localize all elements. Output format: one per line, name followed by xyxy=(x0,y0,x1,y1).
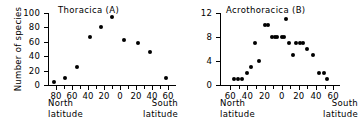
x-ticklabel-b-5: 40 xyxy=(310,91,321,101)
y-ticklabel-a-1: 20 xyxy=(16,66,40,76)
y-tick-b-0 xyxy=(216,85,220,86)
x-minor-tick-a-0 xyxy=(64,86,65,89)
data-point-b xyxy=(257,59,261,63)
y-tick-a-2 xyxy=(44,56,48,57)
x-tick-b-0 xyxy=(230,86,231,90)
north-line1-a: North xyxy=(48,98,83,109)
data-point-b xyxy=(305,47,309,51)
y-ticklabel-b-3: 12 xyxy=(188,8,212,18)
south-line1-b: South xyxy=(323,98,358,109)
y-ticklabel-a-2: 40 xyxy=(16,51,40,61)
north-line2-b: latitude xyxy=(220,109,255,120)
panel-thoracica: Number of species Thoracica (A) 02040608… xyxy=(0,0,182,134)
north-line2-a: latitude xyxy=(48,109,83,120)
data-point-b xyxy=(240,77,244,81)
x-ticklabel-a-4: 0 xyxy=(117,91,123,101)
south-line2-a: latitude xyxy=(143,109,178,120)
data-point-b xyxy=(325,77,329,81)
x-tick-a-0 xyxy=(56,86,57,90)
y-tick-a-5 xyxy=(44,13,48,14)
data-point-a xyxy=(136,41,140,45)
north-line1-b: North xyxy=(220,98,255,109)
x-minor-tick-b-5 xyxy=(325,86,326,89)
x-minor-tick-a-1 xyxy=(80,86,81,89)
x-minor-tick-b-0 xyxy=(239,86,240,89)
x-tick-a-6 xyxy=(152,86,153,90)
data-point-a xyxy=(148,50,152,54)
y-axis-line-b xyxy=(220,13,221,85)
x-ticklabel-b-2: 20 xyxy=(259,91,270,101)
data-point-b xyxy=(245,71,249,75)
y-tick-a-1 xyxy=(44,71,48,72)
data-point-b xyxy=(301,41,305,45)
x-minor-tick-b-3 xyxy=(290,86,291,89)
x-ticklabel-a-3: 20 xyxy=(98,91,109,101)
x-ticklabel-a-2: 40 xyxy=(82,91,93,101)
x-tick-b-4 xyxy=(299,86,300,90)
south-line2-b: latitude xyxy=(323,109,358,120)
x-minor-tick-a-3 xyxy=(112,86,113,89)
south-line1-a: South xyxy=(143,98,178,109)
data-point-b xyxy=(311,53,315,57)
x-axis-caption-south-a: South latitude xyxy=(143,98,178,120)
x-ticklabel-b-3: 0 xyxy=(279,91,285,101)
data-point-a xyxy=(164,76,168,80)
y-tick-a-0 xyxy=(44,85,48,86)
y-axis-line-a xyxy=(48,13,49,85)
data-point-a xyxy=(52,80,56,84)
x-ticklabel-a-5: 20 xyxy=(130,91,141,101)
x-axis-caption-north-a: North latitude xyxy=(48,98,83,120)
plot-area-b: 048126040200204060 xyxy=(220,13,340,85)
x-minor-tick-b-2 xyxy=(273,86,274,89)
data-point-b xyxy=(284,17,288,21)
y-ticklabel-a-3: 60 xyxy=(16,37,40,47)
data-point-b xyxy=(253,41,257,45)
data-point-b xyxy=(322,71,326,75)
data-point-b xyxy=(249,65,253,69)
data-point-a xyxy=(99,25,103,29)
y-tick-b-2 xyxy=(216,37,220,38)
panel-acrothoracica: Acrothoracica (B) 048126040200204060 Nor… xyxy=(182,0,364,134)
x-axis-caption-south-b: South latitude xyxy=(323,98,358,120)
x-minor-tick-a-5 xyxy=(144,86,145,89)
x-tick-a-1 xyxy=(72,86,73,90)
x-tick-a-2 xyxy=(88,86,89,90)
x-tick-b-3 xyxy=(282,86,283,90)
data-point-a xyxy=(63,76,67,80)
y-ticklabel-b-1: 4 xyxy=(188,56,212,66)
x-tick-a-7 xyxy=(168,86,169,90)
x-tick-a-5 xyxy=(136,86,137,90)
x-minor-tick-a-4 xyxy=(128,86,129,89)
x-tick-b-6 xyxy=(333,86,334,90)
x-tick-b-1 xyxy=(247,86,248,90)
y-ticklabel-a-5: 100 xyxy=(16,8,40,18)
x-tick-b-5 xyxy=(316,86,317,90)
x-minor-tick-b-1 xyxy=(256,86,257,89)
data-point-a xyxy=(110,15,114,19)
data-point-a xyxy=(88,35,92,39)
x-tick-a-4 xyxy=(120,86,121,90)
data-point-a xyxy=(122,38,126,42)
y-tick-b-3 xyxy=(216,13,220,14)
y-ticklabel-b-2: 8 xyxy=(188,32,212,42)
data-point-a xyxy=(75,65,79,69)
y-ticklabel-a-0: 0 xyxy=(16,80,40,90)
y-tick-b-1 xyxy=(216,61,220,62)
x-axis-caption-north-b: North latitude xyxy=(220,98,255,120)
data-point-b xyxy=(287,41,291,45)
x-minor-tick-a-2 xyxy=(96,86,97,89)
figure-two-panel-scatter: Number of species Thoracica (A) 02040608… xyxy=(0,0,364,134)
y-tick-a-3 xyxy=(44,42,48,43)
x-tick-a-3 xyxy=(104,86,105,90)
x-minor-tick-a-6 xyxy=(160,86,161,89)
x-tick-b-2 xyxy=(265,86,266,90)
y-tick-a-4 xyxy=(44,27,48,28)
x-ticklabel-b-4: 20 xyxy=(293,91,304,101)
data-point-b xyxy=(282,35,286,39)
data-point-b xyxy=(266,23,270,27)
plot-area-a: 020406080100806040200204060 xyxy=(48,13,176,85)
data-point-b xyxy=(291,53,295,57)
y-ticklabel-a-4: 80 xyxy=(16,22,40,32)
x-minor-tick-b-4 xyxy=(307,86,308,89)
y-ticklabel-b-0: 0 xyxy=(188,80,212,90)
